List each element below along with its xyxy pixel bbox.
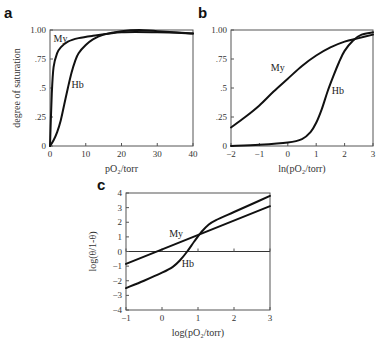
chart-panel-c: c−10123−4−3−2−101234log(pO₂/torr)log(θ/1…: [87, 176, 273, 339]
x-axis-label: pO₂/torr: [105, 163, 139, 174]
x-tick-label: 40: [189, 149, 199, 159]
y-tick-label: .5: [39, 83, 46, 93]
curve-hb: [126, 196, 270, 288]
curve-label-my: My: [54, 33, 68, 44]
x-tick-label: −1: [121, 313, 131, 323]
y-tick-label: .25: [216, 112, 228, 122]
y-tick-label: 1.00: [211, 25, 227, 35]
y-tick-label: .75: [35, 54, 47, 64]
x-tick-label: 30: [153, 149, 163, 159]
chart-panel-b: b−2−101230.25.5.751.00ln(pO₂/torr)MyHb: [198, 4, 376, 175]
curve-my: [231, 35, 373, 128]
figure: a0102030400.25.5.751.00pO₂/torrdegree of…: [0, 0, 390, 350]
y-tick-label: 0: [42, 141, 47, 151]
x-tick-label: 1: [196, 313, 201, 323]
curve-label-hb: Hb: [332, 85, 344, 96]
curve-label-my: My: [271, 62, 285, 73]
x-tick-label: 3: [371, 149, 376, 159]
y-tick-label: 4: [118, 188, 123, 198]
y-tick-label: 0: [118, 247, 123, 257]
x-tick-label: 2: [232, 313, 237, 323]
y-axis-label: degree of saturation: [11, 48, 22, 127]
y-tick-label: 2: [118, 217, 123, 227]
x-tick-label: 0: [160, 313, 165, 323]
curve-label-hb: Hb: [71, 79, 83, 90]
y-tick-label: 1: [118, 232, 123, 242]
x-tick-label: −2: [226, 149, 236, 159]
y-tick-label: −3: [112, 290, 122, 300]
chart-panel-a: a0102030400.25.5.751.00pO₂/torrdegree of…: [4, 4, 198, 174]
panel-label: a: [4, 4, 13, 21]
y-tick-label: .75: [216, 54, 228, 64]
x-tick-label: 1: [314, 149, 319, 159]
curve-hb: [231, 32, 373, 146]
x-tick-label: −1: [255, 149, 265, 159]
y-tick-label: −4: [112, 305, 122, 315]
x-tick-label: 0: [286, 149, 291, 159]
x-tick-label: 0: [48, 149, 53, 159]
y-tick-label: .5: [220, 83, 227, 93]
y-tick-label: −2: [112, 276, 122, 286]
y-tick-label: −1: [112, 261, 122, 271]
panel-label: c: [97, 176, 105, 193]
y-axis-label: log(θ/1-θ): [87, 231, 99, 271]
x-tick-label: 2: [342, 149, 347, 159]
plot-frame: [231, 30, 373, 146]
curve-label-hb: Hb: [182, 258, 194, 269]
y-tick-label: .25: [35, 112, 47, 122]
panel-label: b: [198, 4, 207, 21]
x-tick-label: 20: [117, 149, 127, 159]
x-axis-label: log(pO₂/torr): [172, 327, 224, 339]
x-axis-label: ln(pO₂/torr): [278, 163, 325, 175]
x-tick-label: 10: [81, 149, 91, 159]
y-tick-label: 3: [118, 203, 123, 213]
x-tick-label: 3: [268, 313, 273, 323]
y-tick-label: 1.00: [30, 25, 46, 35]
curve-label-my: My: [169, 228, 183, 239]
y-tick-label: 0: [223, 141, 228, 151]
